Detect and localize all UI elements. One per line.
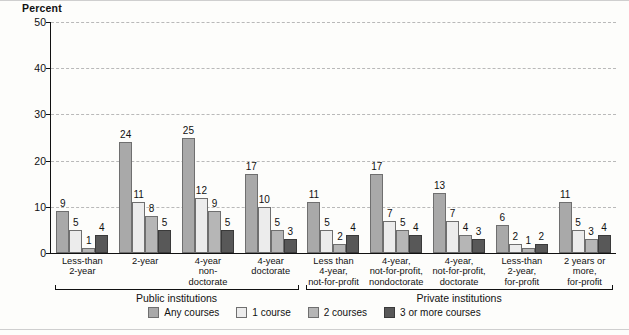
bar-group-bars: 13743	[428, 22, 491, 253]
bar[interactable]	[459, 235, 472, 253]
category-label-line: Less than	[302, 256, 365, 266]
x-axis-category-label: 4-year,not-for-profit,nondoctorate	[365, 256, 428, 287]
category-label-line: doctorate	[428, 277, 491, 287]
legend-label: Any courses	[164, 307, 219, 318]
bar-value-label: 3	[466, 227, 492, 237]
bar[interactable]	[409, 235, 422, 253]
bar-item[interactable]: 2	[535, 22, 548, 253]
bar[interactable]	[433, 193, 446, 253]
x-axis-category-label: Less-than2-year,for-profit	[490, 256, 553, 287]
category-label-line: Less-than	[51, 256, 114, 266]
bar-item[interactable]: 4	[409, 22, 422, 253]
bar-item[interactable]: 2	[333, 22, 346, 253]
bar-group: 171053	[239, 22, 302, 253]
bar-item[interactable]: 5	[320, 22, 333, 253]
bar-group: 11524	[302, 22, 365, 253]
bar[interactable]	[82, 248, 95, 253]
category-label-line: 2-year	[51, 266, 114, 276]
bar-item[interactable]: 3	[472, 22, 485, 253]
bar-item[interactable]: 7	[446, 22, 459, 253]
bar[interactable]	[95, 235, 108, 253]
category-label-line: more,	[553, 266, 616, 276]
bar[interactable]	[522, 248, 535, 253]
bar-item[interactable]: 5	[158, 22, 171, 253]
bar-item[interactable]: 3	[585, 22, 598, 253]
legend-label: 3 or more courses	[400, 307, 481, 318]
bar-group-bars: 17754	[365, 22, 428, 253]
bar-value-label: 5	[214, 218, 240, 228]
bar-item[interactable]: 4	[459, 22, 472, 253]
y-axis-tick-label: 0	[20, 247, 46, 259]
bar-item[interactable]: 1	[522, 22, 535, 253]
bar-item[interactable]: 12	[195, 22, 208, 253]
bar-item[interactable]: 2	[509, 22, 522, 253]
bar-item[interactable]: 11	[132, 22, 145, 253]
legend-item[interactable]: 2 courses	[308, 307, 367, 318]
bar-group-bars: 11534	[553, 22, 616, 253]
legend-swatch	[236, 307, 247, 318]
bar-value-label: 5	[152, 218, 178, 228]
bar[interactable]	[346, 235, 359, 253]
bar-item[interactable]: 6	[496, 22, 509, 253]
bar-item[interactable]: 5	[271, 22, 284, 253]
category-label-line: doctorate	[177, 277, 240, 287]
bar-item[interactable]: 4	[346, 22, 359, 253]
bar-group-bars: 251295	[177, 22, 240, 253]
bar[interactable]	[158, 230, 171, 253]
category-label-line: 4-year,	[365, 256, 428, 266]
category-label-line: for-profit	[490, 277, 553, 287]
bar[interactable]	[472, 239, 485, 253]
bar-item[interactable]: 1	[82, 22, 95, 253]
category-label-line: not-for-profit,	[365, 266, 428, 276]
legend-item[interactable]: Any courses	[148, 307, 219, 318]
x-axis-category-label: 2-year	[114, 256, 177, 266]
category-label-line: 4-year,	[428, 256, 491, 266]
x-axis-category-label: 4-yeardoctorate	[239, 256, 302, 277]
bar-group-bars: 6212	[490, 22, 553, 253]
category-label-line: nondoctorate	[365, 277, 428, 287]
y-axis-tick-label: 50	[20, 16, 46, 28]
bar[interactable]	[258, 207, 271, 253]
bar-group-bars: 241185	[114, 22, 177, 253]
category-label-line: 4-year	[177, 256, 240, 266]
bar-item[interactable]: 4	[598, 22, 611, 253]
bar[interactable]	[245, 174, 258, 253]
bar[interactable]	[585, 239, 598, 253]
legend-item[interactable]: 1 course	[236, 307, 290, 318]
bar-item[interactable]: 3	[284, 22, 297, 253]
bar-item[interactable]: 5	[396, 22, 409, 253]
bar-value-label: 4	[403, 223, 429, 233]
bar-item[interactable]: 4	[95, 22, 108, 253]
bar-item[interactable]: 25	[182, 22, 195, 253]
bar[interactable]	[396, 230, 409, 253]
bar-item[interactable]: 5	[221, 22, 234, 253]
legend-swatch	[384, 307, 395, 318]
bar-item[interactable]: 24	[119, 22, 132, 253]
bar[interactable]	[598, 235, 611, 253]
bar-item[interactable]: 17	[245, 22, 258, 253]
bar[interactable]	[284, 239, 297, 253]
bar-group-bars: 9514	[51, 22, 114, 253]
x-axis-category-label: 2 years ormore,for-profit	[553, 256, 616, 287]
bar-item[interactable]: 5	[69, 22, 82, 253]
plot-area: 9514241185251295171053115241775413743621…	[51, 22, 616, 253]
bar-group: 13743	[428, 22, 491, 253]
bar-chart: Percent 01020304050 95142411852512951710…	[0, 0, 629, 335]
legend-item[interactable]: 3 or more courses	[384, 307, 481, 318]
group-bracket-label: Public institutions	[55, 292, 298, 304]
bar-item[interactable]: 5	[572, 22, 585, 253]
legend-label: 2 courses	[324, 307, 367, 318]
legend-label: 1 course	[252, 307, 290, 318]
category-label-line: 4-year	[239, 256, 302, 266]
bar[interactable]	[333, 244, 346, 253]
bar-group: 9514	[51, 22, 114, 253]
bar-group: 11534	[553, 22, 616, 253]
group-bracket-line	[55, 289, 298, 290]
bottom-rule	[0, 329, 629, 330]
category-label-line: 2 years or	[553, 256, 616, 266]
bar[interactable]	[535, 244, 548, 253]
y-axis-title: Percent	[22, 2, 62, 14]
x-axis-category-label: 4-year,not-for-profit,doctorate	[428, 256, 491, 287]
bar[interactable]	[221, 230, 234, 253]
category-label-line: doctorate	[239, 266, 302, 276]
